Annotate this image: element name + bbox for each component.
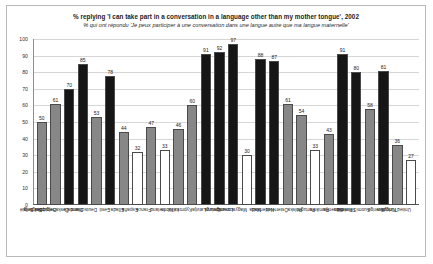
bar[interactable]: 46 xyxy=(173,129,183,205)
bar-slot: 61 xyxy=(281,39,295,205)
bar-value-label: 32 xyxy=(135,145,141,151)
bar[interactable]: 92 xyxy=(214,52,224,205)
bar-value-label: 70 xyxy=(66,82,72,88)
bar[interactable]: 88 xyxy=(255,59,265,205)
y-axis-tick-label: 70 xyxy=(22,86,28,92)
bar[interactable]: 80 xyxy=(351,72,361,205)
bar-slot: 54 xyxy=(295,39,309,205)
bar-value-label: 60 xyxy=(189,98,195,104)
bar[interactable]: 61 xyxy=(50,104,60,205)
x-label-slot: Türkiye xyxy=(390,206,404,262)
bar-slot: 61 xyxy=(49,39,63,205)
x-label-slot: Eesti xyxy=(103,206,117,262)
bar-slot: 88 xyxy=(254,39,268,205)
bar[interactable]: 85 xyxy=(78,64,88,205)
bar[interactable]: 60 xyxy=(187,105,197,205)
x-label-slot: Latvija xyxy=(199,206,213,262)
x-axis-tick-label: Kypros / Kibris xyxy=(161,207,192,212)
x-label-slot: Danmark xyxy=(76,206,90,262)
bar-slot: 36 xyxy=(390,39,404,205)
bar-slot: 92 xyxy=(213,39,227,205)
y-axis-tick-label: 100 xyxy=(19,36,28,42)
bar-slot: 53 xyxy=(90,39,104,205)
x-label-slot: Magyarország xyxy=(240,206,254,262)
bar-slot: 47 xyxy=(144,39,158,205)
bar[interactable]: 54 xyxy=(296,115,306,205)
bar[interactable]: 50 xyxy=(37,122,47,205)
bar-value-label: 30 xyxy=(244,148,250,154)
bar[interactable]: 32 xyxy=(132,152,142,205)
bar-slot: 27 xyxy=(404,39,418,205)
bar-value-label: 80 xyxy=(354,65,360,71)
bar[interactable]: 36 xyxy=(392,145,402,205)
bar-slot: 87 xyxy=(267,39,281,205)
bar[interactable]: 43 xyxy=(324,134,334,205)
bar-slot: 70 xyxy=(62,39,76,205)
x-label-slot: Deutschland xyxy=(90,206,104,262)
x-label-slot: Portugal xyxy=(308,206,322,262)
x-axis-tick-label: France xyxy=(136,207,151,212)
bar[interactable]: 87 xyxy=(269,61,279,205)
bar[interactable]: 91 xyxy=(337,54,347,205)
bar-slot: 85 xyxy=(76,39,90,205)
x-label-slot: Ellada xyxy=(117,206,131,262)
bar[interactable]: 61 xyxy=(283,104,293,205)
bar[interactable]: 81 xyxy=(378,71,388,205)
x-label-slot: Ireland xyxy=(158,206,172,262)
bar-slot: 80 xyxy=(349,39,363,205)
bar-value-label: 53 xyxy=(94,110,100,116)
bar[interactable]: 33 xyxy=(160,150,170,205)
bar[interactable]: 91 xyxy=(201,54,211,205)
x-label-slot: United Kingdom xyxy=(404,206,418,262)
x-label-slot: Česká republika xyxy=(62,206,76,262)
y-axis-tick-labels: 0102030405060708090100 xyxy=(7,39,31,205)
bar-value-label: 58 xyxy=(367,102,373,108)
bar-value-label: 87 xyxy=(271,54,277,60)
bar[interactable]: 97 xyxy=(228,44,238,205)
x-axis-tick-label: Suomi / Finland xyxy=(337,207,370,212)
bar[interactable]: 53 xyxy=(91,117,101,205)
x-label-slot: Luxembourg xyxy=(226,206,240,262)
x-axis-tick-label: Eesti xyxy=(99,207,110,212)
y-axis-tick-label: 40 xyxy=(22,136,28,142)
bars-container: 5061708553784432473346609192973088876154… xyxy=(33,39,419,205)
chart-header: % replying 'I can take part in a convers… xyxy=(7,12,425,30)
x-label-slot: Slovenija xyxy=(336,206,350,262)
bar-slot: 50 xyxy=(35,39,49,205)
bar-value-label: 54 xyxy=(299,108,305,114)
bar[interactable]: 58 xyxy=(365,109,375,205)
bar-value-label: 85 xyxy=(80,57,86,63)
bar-value-label: 33 xyxy=(162,143,168,149)
bar-value-label: 36 xyxy=(395,138,401,144)
bar-value-label: 44 xyxy=(121,125,127,131)
x-axis-category-labels: BalgarijaBelgique / BelgiëČeská republik… xyxy=(33,206,419,262)
bar[interactable]: 70 xyxy=(64,89,74,205)
chart-title: % replying 'I can take part in a convers… xyxy=(7,12,425,21)
x-label-slot: Lietuva xyxy=(213,206,227,262)
x-label-slot: Polska xyxy=(295,206,309,262)
bar-slot: 91 xyxy=(199,39,213,205)
bar[interactable]: 33 xyxy=(310,150,320,205)
bar-value-label: 81 xyxy=(381,64,387,70)
x-label-slot: Sverige xyxy=(377,206,391,262)
bar-value-label: 88 xyxy=(258,52,264,58)
x-label-slot: Malta xyxy=(254,206,268,262)
y-axis-tick-label: 20 xyxy=(22,169,28,175)
bar[interactable]: 78 xyxy=(105,76,115,205)
bar-slot: 32 xyxy=(131,39,145,205)
bar[interactable]: 44 xyxy=(119,132,129,205)
bar[interactable]: 47 xyxy=(146,127,156,205)
x-axis-tick-label: Magyarország xyxy=(217,207,247,212)
bar-value-label: 47 xyxy=(148,120,154,126)
x-label-slot: France xyxy=(144,206,158,262)
bar-value-label: 33 xyxy=(312,143,318,149)
bar-slot: 44 xyxy=(117,39,131,205)
bar-value-label: 46 xyxy=(176,122,182,128)
x-label-slot: España xyxy=(131,206,145,262)
y-axis-tick-label: 60 xyxy=(22,102,28,108)
bar[interactable]: 27 xyxy=(406,160,416,205)
x-label-slot: Österreich xyxy=(281,206,295,262)
bar[interactable]: 30 xyxy=(242,155,252,205)
bar-slot: 33 xyxy=(158,39,172,205)
x-label-slot: România xyxy=(322,206,336,262)
